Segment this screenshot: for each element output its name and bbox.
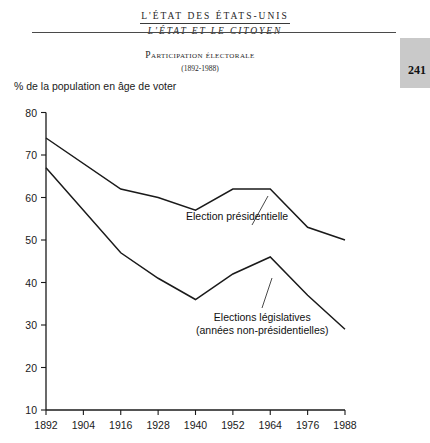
y-tick-label: 50 [25,234,37,246]
y-tick-label: 40 [25,277,37,289]
y-tick-label: 70 [25,149,37,161]
annotation-legislative: Elections législatives (années non-prési… [196,311,329,336]
series-line-legislative [46,168,345,330]
x-tick-label: 1952 [221,419,245,431]
x-tick-label: 1928 [146,419,170,431]
y-tick-label: 30 [25,319,37,331]
y-tick-label: 80 [25,107,37,119]
x-tick-label: 1964 [259,419,283,431]
leader-line-legislative [262,278,272,308]
x-tick-label: 1940 [184,419,208,431]
x-tick-label: 1916 [109,419,133,431]
x-tick-label: 1988 [333,419,357,431]
x-tick-label: 1904 [72,419,96,431]
x-tick-label: 1892 [34,419,58,431]
x-tick-label: 1976 [296,419,320,431]
series-line-presidential [46,138,345,240]
x-axis-ticks: 189219041916192819401952196419761988 [34,410,357,431]
y-axis-ticks: 8070605040302010 [25,107,46,417]
y-tick-label: 60 [25,192,37,204]
y-tick-label: 20 [25,362,37,374]
annotation-presidential: Election présidentielle [186,210,288,223]
annotation-legislative-line-2: (années non-présidentielles) [196,324,329,337]
annotation-legislative-line-1: Elections législatives [196,311,329,324]
y-tick-label: 10 [25,404,37,416]
